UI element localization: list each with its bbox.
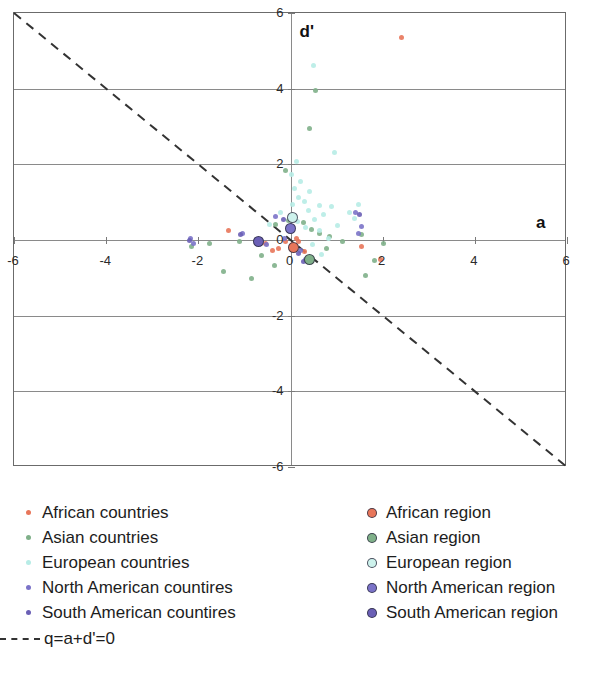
x-tick-label: -6 (7, 253, 19, 268)
x-tick-label: -2 (192, 253, 204, 268)
data-point-country (356, 231, 361, 236)
data-point-country (317, 203, 322, 208)
data-point-country (312, 217, 317, 222)
data-point-country (290, 202, 295, 207)
y-axis-title: d' (300, 22, 314, 42)
scatter-chart: -6-4-202466420-2-4-6 d' a (0, 0, 607, 500)
legend-swatch-wrap (14, 610, 42, 615)
legend: African countriesAsian countriesEuropean… (0, 500, 607, 676)
legend-item-label: Asian countries (42, 528, 158, 548)
data-point-country (352, 216, 357, 221)
data-point-country (329, 204, 334, 209)
legend-ringed-dot-icon (367, 508, 377, 518)
legend-item-label: South American countires (42, 603, 236, 623)
legend-item: Asian region (358, 525, 558, 550)
legend-item: North American region (358, 575, 558, 600)
data-point-country (249, 276, 254, 281)
data-point-country (357, 212, 362, 217)
data-point-country (317, 228, 322, 233)
data-point-country (399, 35, 404, 40)
legend-dot-icon (26, 535, 31, 540)
y-tick-label: -4 (272, 383, 284, 398)
legend-item: Asian countries (14, 525, 236, 550)
y-tick-label: -6 (272, 459, 284, 474)
reference-line-q-equals-zero (14, 13, 567, 467)
y-tick-label: 4 (276, 80, 283, 95)
legend-swatch-wrap (14, 510, 42, 515)
legend-item-label: African region (386, 503, 491, 523)
legend-swatch-wrap (358, 583, 386, 593)
x-tick-label: -4 (99, 253, 111, 268)
legend-dot-icon (26, 585, 31, 590)
data-point-country (267, 222, 272, 227)
data-point-country (294, 159, 299, 164)
legend-dot-icon (26, 560, 31, 565)
legend-swatch-wrap (358, 508, 386, 518)
legend-swatch-wrap (14, 585, 42, 590)
legend-swatch-wrap (14, 560, 42, 565)
data-point-country (187, 238, 192, 243)
data-point-country (281, 217, 286, 222)
legend-ringed-dot-icon (367, 608, 377, 618)
data-point-country (273, 222, 278, 227)
legend-ringed-dot-icon (367, 533, 377, 543)
data-point-country (332, 150, 337, 155)
data-point-country (298, 179, 303, 184)
y-tick-mark (288, 467, 295, 468)
legend-ringed-dot-icon (367, 583, 377, 593)
data-point-country (326, 236, 331, 241)
y-tick-label: 2 (276, 156, 283, 171)
legend-item: African countries (14, 500, 236, 525)
x-tick-mark (567, 237, 568, 244)
legend-dot-icon (26, 510, 31, 515)
legend-item-label: North American region (386, 578, 555, 598)
legend-swatch-wrap (358, 608, 386, 618)
legend-swatch-wrap (358, 558, 386, 568)
data-point-country (191, 241, 196, 246)
data-point-country (321, 212, 326, 217)
legend-item: South American region (358, 600, 558, 625)
legend-ringed-dot-icon (367, 558, 377, 568)
data-point-country (306, 208, 311, 213)
legend-line-label: q=a+d'=0 (44, 629, 115, 649)
legend-item-label: European countries (42, 553, 189, 573)
legend-item: African region (358, 500, 558, 525)
y-tick-label: 6 (276, 5, 283, 20)
data-point-region (304, 254, 315, 265)
data-point-country (283, 168, 288, 173)
legend-item-label: European region (386, 553, 512, 573)
legend-column-countries: African countriesAsian countriesEuropean… (14, 500, 236, 625)
x-tick-label: 6 (562, 253, 569, 268)
y-tick-label: -2 (272, 307, 284, 322)
legend-item-label: South American region (386, 603, 558, 623)
legend-item: South American countires (14, 600, 236, 625)
x-axis-title: a (536, 213, 545, 233)
legend-item: European region (358, 550, 558, 575)
legend-item-label: Asian region (386, 528, 481, 548)
data-point-country (221, 269, 226, 274)
data-point-country (294, 236, 299, 241)
legend-item: North American countires (14, 575, 236, 600)
data-point-region (287, 212, 298, 223)
data-point-country (226, 228, 231, 233)
data-point-country (302, 199, 307, 204)
legend-item: European countries (14, 550, 236, 575)
legend-swatch-wrap (358, 533, 386, 543)
dashed-line-icon (0, 638, 40, 640)
x-tick-label: 0 (286, 253, 293, 268)
x-tick-label: 2 (378, 253, 385, 268)
data-point-country (356, 202, 361, 207)
data-point-region (253, 236, 264, 247)
legend-dot-icon (26, 610, 31, 615)
legend-item-label: African countries (42, 503, 169, 523)
plot-frame (13, 12, 566, 466)
x-tick-label: 4 (470, 253, 477, 268)
data-point-country (309, 227, 314, 232)
y-tick-label: 0 (276, 232, 283, 247)
data-point-country (381, 241, 386, 246)
legend-item-label: North American countires (42, 578, 233, 598)
legend-swatch-wrap (14, 535, 42, 540)
legend-column-regions: African regionAsian regionEuropean regio… (358, 500, 558, 625)
data-point-country (324, 246, 329, 251)
legend-item-reference-line: q=a+d'=0 (0, 627, 115, 651)
